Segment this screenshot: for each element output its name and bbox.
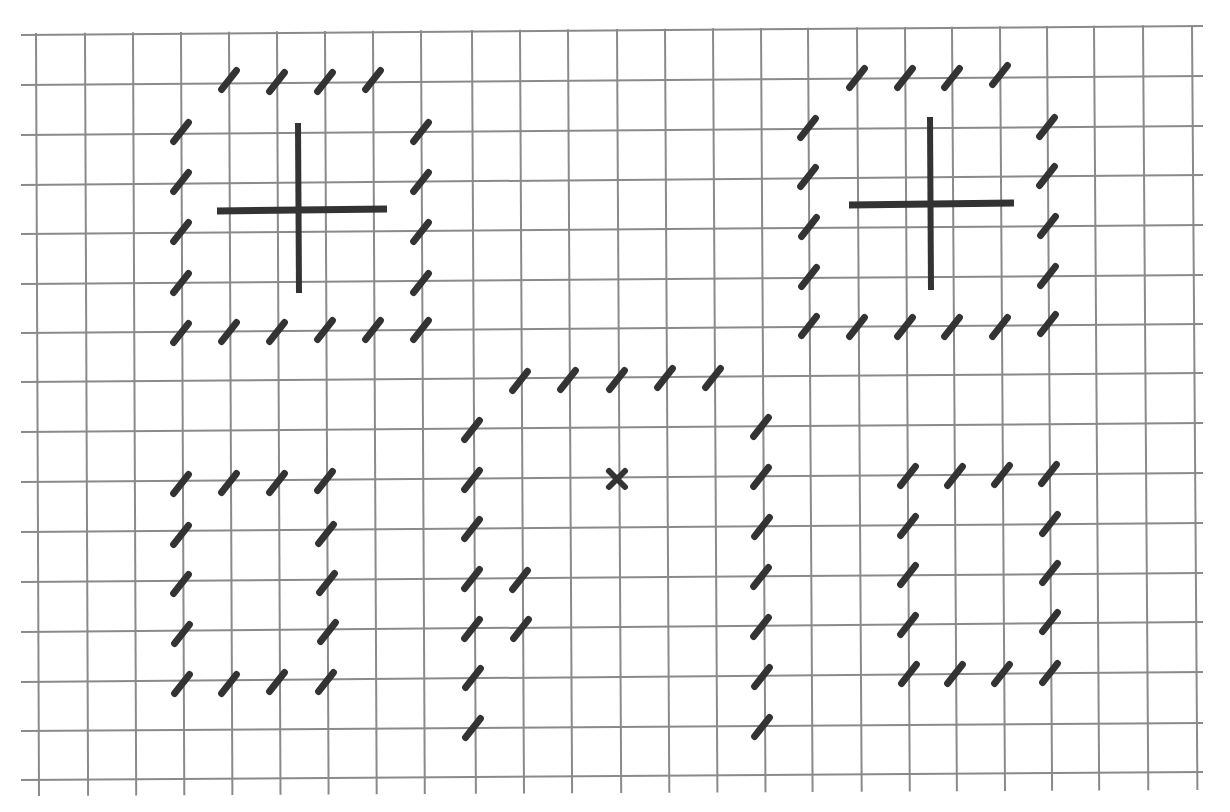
grid-paper-worksheet bbox=[0, 0, 1230, 812]
plus-vertical-bar bbox=[298, 123, 299, 293]
plus-vertical-bar bbox=[930, 117, 931, 290]
grid-canvas bbox=[0, 0, 1230, 812]
plus-horizontal-bar bbox=[217, 209, 387, 211]
